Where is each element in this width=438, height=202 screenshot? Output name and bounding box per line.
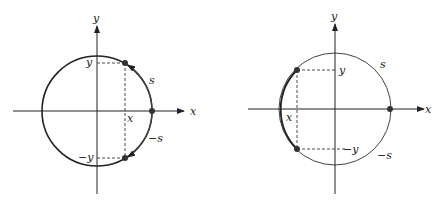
right-diagram: y x y −y x s −s xyxy=(248,10,432,194)
arc-neg-s-label: −s xyxy=(377,149,392,162)
x-value-label: x xyxy=(127,112,134,125)
point-start xyxy=(149,108,155,114)
x-value-label: x xyxy=(286,111,293,124)
arc-neg-s-label: −s xyxy=(148,132,163,145)
point-bottom xyxy=(122,155,128,161)
y-value-label: y xyxy=(338,64,346,77)
x-axis-label: x xyxy=(425,103,432,116)
arc-s xyxy=(128,65,152,111)
unit-circle-figure: y x y −y x s −s y x y −y x s −s xyxy=(0,0,438,202)
arc-s-label: s xyxy=(149,74,155,87)
point-start xyxy=(387,106,393,112)
point-top xyxy=(294,67,300,73)
x-axis-label: x xyxy=(190,105,197,118)
neg-y-value-label: −y xyxy=(78,151,94,164)
left-diagram: y x y −y x s −s xyxy=(13,12,197,194)
arc-s-label: s xyxy=(380,58,386,71)
y-axis-label: y xyxy=(92,12,100,25)
neg-y-value-label: −y xyxy=(343,143,359,156)
y-axis-label: y xyxy=(330,10,338,23)
point-top xyxy=(122,60,128,66)
point-bottom xyxy=(294,146,300,152)
y-value-label: y xyxy=(85,56,93,69)
